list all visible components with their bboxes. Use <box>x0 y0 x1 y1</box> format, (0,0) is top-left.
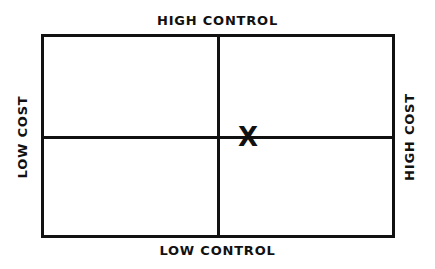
position-marker: X <box>238 124 258 150</box>
bottom-axis-label: LOW CONTROL <box>0 243 435 258</box>
matrix-grid <box>41 34 395 238</box>
horizontal-divider <box>44 136 392 139</box>
left-axis-label: LOW COST <box>15 96 30 179</box>
top-axis-label: HIGH CONTROL <box>0 13 435 28</box>
right-axis-label: HIGH COST <box>402 93 417 181</box>
